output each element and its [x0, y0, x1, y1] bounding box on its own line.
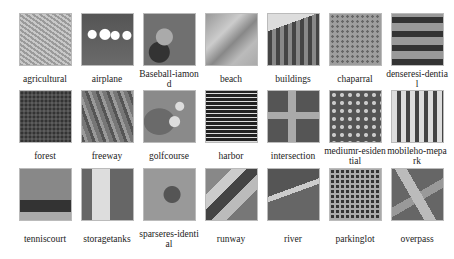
cell-agricultural: agricultural — [14, 13, 76, 84]
cell-chaparral: chaparral — [324, 13, 386, 84]
parkinglot-image — [329, 168, 382, 221]
scene-class-grid: agricultural airplane Baseball-iamond be… — [0, 0, 454, 259]
cell-denseresidential: denseresi-dential — [386, 13, 448, 89]
label-mobilehomepark: mobileho-mepark — [386, 146, 448, 166]
label-freeway: freeway — [76, 151, 138, 161]
label-airplane: airplane — [76, 74, 138, 84]
cell-mobilehomepark: mobileho-mepark — [386, 90, 448, 166]
buildings-image — [267, 13, 320, 66]
label-tenniscourt: tenniscourt — [14, 234, 76, 244]
airplane-image — [81, 13, 134, 66]
golfcourse-image — [143, 90, 196, 143]
cell-baseballdiamond: Baseball-iamond — [138, 13, 200, 89]
label-intersection: intersection — [262, 151, 324, 161]
label-runway: runway — [200, 234, 262, 244]
label-storagetanks: storagetanks — [76, 234, 138, 244]
harbor-image — [205, 90, 258, 143]
label-sparseresidential: sparseres-idential — [138, 229, 200, 249]
cell-storagetanks: storagetanks — [76, 168, 138, 244]
cell-parkinglot: parkinglot — [324, 168, 386, 244]
overpass-image — [391, 168, 444, 221]
storagetanks-image — [81, 168, 134, 221]
cell-runway: runway — [200, 168, 262, 244]
label-buildings: buildings — [262, 74, 324, 84]
cell-tenniscourt: tenniscourt — [14, 168, 76, 244]
label-harbor: harbor — [200, 151, 262, 161]
label-overpass: overpass — [386, 234, 448, 244]
mediumresidential-image — [329, 90, 382, 143]
forest-image — [19, 90, 72, 143]
agricultural-image — [19, 13, 72, 66]
cell-river: river — [262, 168, 324, 244]
label-chaparral: chaparral — [324, 74, 386, 84]
cell-beach: beach — [200, 13, 262, 84]
label-beach: beach — [200, 74, 262, 84]
cell-golfcourse: golfcourse — [138, 90, 200, 161]
cell-buildings: buildings — [262, 13, 324, 84]
mobilehomepark-image — [391, 90, 444, 143]
label-agricultural: agricultural — [14, 74, 76, 84]
denseresidential-image — [391, 13, 444, 66]
label-golfcourse: golfcourse — [138, 151, 200, 161]
cell-overpass: overpass — [386, 168, 448, 244]
label-forest: forest — [14, 151, 76, 161]
runway-image — [205, 168, 258, 221]
cell-harbor: harbor — [200, 90, 262, 161]
label-parkinglot: parkinglot — [324, 234, 386, 244]
cell-freeway: freeway — [76, 90, 138, 161]
cell-forest: forest — [14, 90, 76, 161]
label-denseresidential: denseresi-dential — [386, 69, 448, 89]
label-baseballdiamond: Baseball-iamond — [138, 69, 200, 89]
cell-mediumresidential: mediumr-esidential — [324, 90, 386, 166]
label-river: river — [262, 234, 324, 244]
intersection-image — [267, 90, 320, 143]
cell-airplane: airplane — [76, 13, 138, 84]
freeway-image — [81, 90, 134, 143]
river-image — [267, 168, 320, 221]
label-mediumresidential: mediumr-esidential — [324, 146, 386, 166]
cell-intersection: intersection — [262, 90, 324, 161]
chaparral-image — [329, 13, 382, 66]
beach-image — [205, 13, 258, 66]
tenniscourt-image — [19, 168, 72, 221]
sparseresidential-image — [143, 168, 196, 221]
baseballdiamond-image — [143, 13, 196, 66]
cell-sparseresidential: sparseres-idential — [138, 168, 200, 249]
